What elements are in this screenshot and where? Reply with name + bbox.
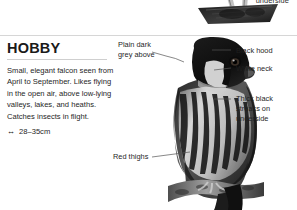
underside-label: underside: [256, 0, 289, 5]
size-value: 28–35cm: [19, 127, 50, 136]
size-row: ↔ 28–35cm: [7, 127, 115, 136]
entry-text-column: HOBBY Small, elegant falcon seen from Ap…: [7, 41, 115, 136]
title-rule: [7, 59, 107, 60]
previous-entry-strip: underside: [0, 0, 297, 35]
field-guide-page: underside: [0, 0, 297, 210]
page-title: HOBBY: [7, 41, 115, 56]
annotation-plain-dark-grey-above: Plain dark grey above: [118, 40, 155, 60]
entry-description: Small, elegant falcon seen from April to…: [7, 65, 115, 123]
annotation-white-neck: White neck: [236, 64, 273, 74]
annotation-red-thighs: Red thighs: [113, 152, 148, 162]
double-arrow-icon: ↔: [7, 127, 15, 136]
annotation-black-hood: Black hood: [236, 46, 273, 56]
annotation-thick-black-streaks: Thick black streaks on underside: [236, 94, 273, 124]
